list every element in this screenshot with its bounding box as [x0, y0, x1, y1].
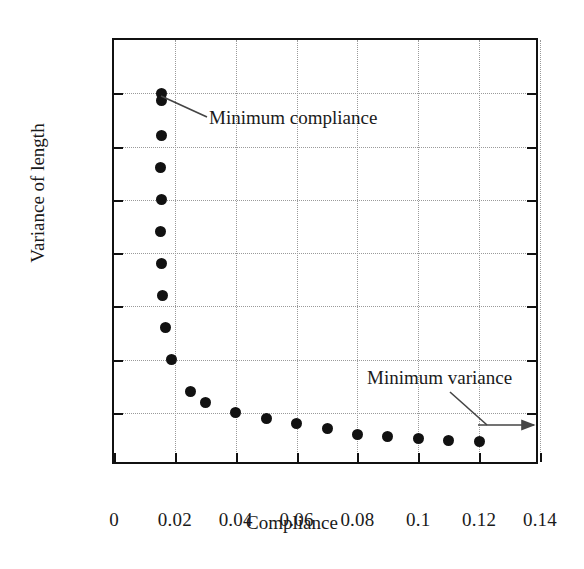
data-point: [200, 397, 211, 408]
data-point: [156, 194, 167, 205]
data-point: [230, 407, 241, 418]
y-axis-tick-right: [527, 360, 536, 362]
x-axis-tick-label: 0.06: [262, 510, 332, 529]
x-axis-tick-label: 0.08: [322, 510, 392, 529]
gridline-vertical: [418, 40, 419, 462]
y-axis-tick: [114, 147, 123, 149]
x-axis-tick: [357, 453, 359, 462]
y-axis-tick: [114, 93, 123, 95]
x-axis-tick-label: 0.14: [505, 510, 575, 529]
x-axis-tick: [175, 453, 177, 462]
x-axis-tick: [479, 453, 481, 462]
x-axis-tick-label: 0: [79, 510, 149, 529]
y-axis-tick: [114, 360, 123, 362]
x-axis-tick-label: 0.02: [140, 510, 210, 529]
y-axis-tick-right: [527, 413, 536, 415]
gridline-horizontal: [114, 306, 536, 307]
x-axis-tick: [540, 453, 542, 462]
y-axis-tick-right: [527, 253, 536, 255]
data-point: [382, 431, 393, 442]
data-point: [474, 436, 485, 447]
x-axis-tick: [297, 453, 299, 462]
gridline-vertical: [479, 40, 480, 462]
y-axis-tick: [114, 253, 123, 255]
gridline-horizontal: [114, 93, 536, 94]
data-point: [291, 418, 302, 429]
y-axis-tick-right: [527, 200, 536, 202]
gridline-horizontal: [114, 253, 536, 254]
gridline-vertical: [175, 40, 176, 462]
x-axis-tick: [236, 453, 238, 462]
y-axis-tick-right: [527, 306, 536, 308]
data-point: [156, 130, 167, 141]
gridline-horizontal: [114, 360, 536, 361]
data-point: [160, 322, 171, 333]
gridline-horizontal: [114, 200, 536, 201]
y-axis-tick: [114, 200, 123, 202]
x-axis-tick-label: 0.04: [201, 510, 271, 529]
data-point: [156, 95, 167, 106]
gridline-vertical: [297, 40, 298, 462]
x-axis-tick: [418, 453, 420, 462]
data-point: [156, 258, 167, 269]
data-point: [155, 226, 166, 237]
chart-figure: Variance of length Compliance 00.020.040…: [0, 0, 584, 569]
y-axis-tick-right: [527, 147, 536, 149]
data-point: [261, 413, 272, 424]
data-point: [352, 429, 363, 440]
data-point: [443, 435, 454, 446]
x-axis-tick-label: 0.1: [383, 510, 453, 529]
x-axis-tick-label: 0.12: [444, 510, 514, 529]
y-axis-title: Variance of length: [27, 93, 49, 293]
data-point: [322, 423, 333, 434]
data-point: [157, 290, 168, 301]
gridline-horizontal: [114, 413, 536, 414]
data-point: [185, 386, 196, 397]
plot-area: 00.020.040.060.080.10.120.14253035404550…: [112, 38, 538, 464]
annotation-min-compliance: Minimum compliance: [209, 108, 377, 128]
gridline-horizontal: [114, 147, 536, 148]
y-axis-tick-right: [527, 93, 536, 95]
x-axis-tick: [114, 453, 116, 462]
gridline-vertical: [357, 40, 358, 462]
gridline-vertical: [540, 40, 541, 462]
data-point: [155, 162, 166, 173]
data-point: [413, 433, 424, 444]
y-axis-tick: [114, 306, 123, 308]
gridline-vertical: [236, 40, 237, 462]
y-axis-tick: [114, 413, 123, 415]
annotation-min-variance: Minimum variance: [367, 368, 512, 388]
